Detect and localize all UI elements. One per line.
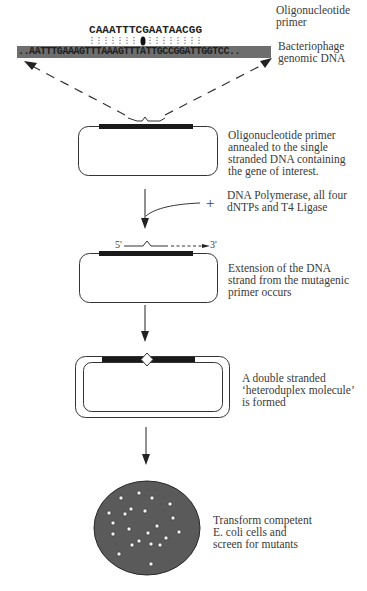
arrow-down-icon — [142, 454, 150, 465]
plus-icon: + — [206, 196, 214, 211]
step-text-line: is formed — [242, 396, 355, 408]
dsdna-inner-circle — [84, 363, 223, 412]
extension-arrow-icon — [202, 244, 210, 248]
step-extension-text: Extension of the DNA strand from the mut… — [228, 262, 349, 298]
reagent-curve — [146, 203, 200, 216]
step-reagents-text: DNA Polymerase, all four dNTPs and T4 Li… — [227, 189, 347, 213]
arrow-down-icon — [141, 218, 149, 229]
gene-of-interest-bar-2 — [99, 251, 193, 256]
agar-plate — [94, 481, 200, 575]
step-text-line: DNA Polymerase, all four — [227, 189, 347, 201]
arrowhead-left-icon — [24, 61, 37, 70]
primer-strand-1 — [128, 117, 165, 121]
step-text-line: Oligonucleotide primer — [228, 129, 346, 141]
ssdna-circle-1 — [79, 127, 218, 176]
step-text-line: A double stranded — [242, 372, 355, 384]
step-text-line: Extension of the DNA — [228, 262, 349, 274]
arrow-down-icon — [141, 331, 149, 342]
step-transform-text: Transform competent E. coli cells and sc… — [213, 514, 312, 550]
step-text-line: ‘heteroduplex molecule’ — [242, 384, 355, 396]
three-prime-label: 3' — [210, 239, 217, 251]
step-text-line: stranded DNA containing — [228, 153, 346, 165]
gene-of-interest-bar-1 — [99, 124, 193, 129]
step-text-line: strand from the mutagenic — [228, 274, 349, 286]
mismatch-marker — [141, 37, 146, 46]
step-text-line: annealed to the single — [228, 141, 346, 153]
primer-strand-2 — [124, 241, 168, 246]
step-heteroduplex-text: A double stranded ‘heteroduplex molecule… — [242, 372, 355, 408]
five-prime-label: 5' — [115, 239, 122, 251]
step-annealing-text: Oligonucleotide primer annealed to the s… — [228, 129, 346, 177]
ssdna-circle-2 — [80, 254, 218, 303]
step-text-line: the gene of interest. — [228, 165, 346, 177]
zoom-lines — [34, 65, 262, 115]
arrowhead-right-icon — [260, 58, 272, 68]
mismatch-bubble — [141, 353, 153, 366]
step-text-line: dNTPs and T4 Ligase — [227, 201, 347, 213]
dsdna-outer-circle — [76, 357, 230, 418]
step-text-line: Transform competent — [213, 514, 312, 526]
step-text-line: E. coli cells and — [213, 526, 312, 538]
step-text-line: primer occurs — [228, 286, 349, 298]
step-text-line: screen for mutants — [213, 538, 312, 550]
